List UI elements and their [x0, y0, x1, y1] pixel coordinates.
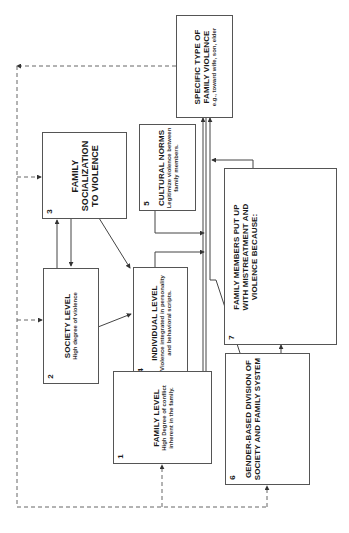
box-specific-title: SPECIFIC TYPE OF FAMILY VIOLENCE: [192, 17, 210, 117]
box-1-subtitle: High Degree of conflict inherent in the …: [160, 376, 174, 460]
box-specific-type: SPECIFIC TYPE OF FAMILY VIOLENCE e.g., t…: [176, 15, 233, 118]
box-7-title: FAMILY MEMBERS PUT UP WITH MISTREATMENT …: [231, 197, 258, 317]
box-1-family-level: 1 FAMILY LEVEL High Degree of conflict i…: [113, 371, 212, 464]
box-5-subtitle: Legitimize violence between family membe…: [165, 126, 179, 210]
box-2-subtitle: High degree of violence: [72, 276, 79, 376]
family-violence-diagram: SPECIFIC TYPE OF FAMILY VIOLENCE e.g., t…: [0, 0, 349, 533]
box-4-individual-level: 4 INDIVIDUAL LEVEL Violence integrated i…: [133, 267, 188, 378]
arrow-3-to-4: [99, 218, 130, 268]
box-7-number: 7: [227, 335, 236, 339]
box-2-number: 2: [46, 374, 55, 378]
arrow-5-to-trunk: [155, 210, 204, 233]
box-6-number: 6: [228, 475, 237, 479]
arrow-4-to-trunk: [155, 252, 204, 267]
box-6-gender-based-division: 6 GENDER-BASED DIVISION OF SOCIETY AND F…: [225, 353, 310, 485]
box-7-family-members-put-up: 7 FAMILY MEMBERS PUT UP WITH MISTREATMEN…: [224, 168, 337, 345]
box-3-title: FAMILY SOCIALIZATION TO VIOLENCE: [70, 135, 100, 217]
box-4-title: INDIVIDUAL LEVEL: [149, 275, 158, 371]
box-1-number: 1: [116, 454, 125, 458]
box-2-society-level: 2 SOCIETY LEVEL High degree of violence: [43, 268, 99, 384]
arrow-7-to-trunk: [212, 160, 253, 168]
box-4-subtitle: Violence integrated in personality and b…: [158, 275, 172, 371]
box-5-title: CULTURAL NORMS: [156, 126, 165, 210]
arrow-2-to-4: [98, 314, 131, 327]
box-1-title: FAMILY LEVEL: [151, 376, 160, 460]
box-2-title: SOCIETY LEVEL: [63, 276, 72, 376]
box-3-family-socialization: 3 FAMILY SOCIALIZATION TO VIOLENCE: [42, 132, 127, 219]
box-3-number: 3: [45, 209, 54, 213]
box-6-title: GENDER-BASED DIVISION OF SOCIETY AND FAM…: [244, 357, 262, 481]
box-specific-subtitle: e.g., toward wife, son, elder: [210, 17, 217, 117]
box-5-cultural-norms: 5 CULTURAL NORMS Legitimize violence bet…: [139, 124, 196, 211]
box-5-number: 5: [142, 201, 151, 205]
